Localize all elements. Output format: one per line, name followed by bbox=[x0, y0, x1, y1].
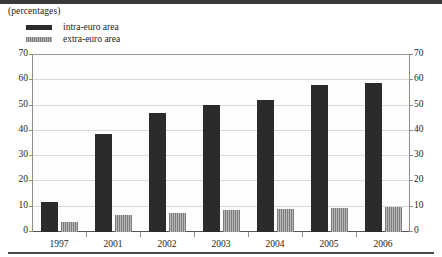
x-tick-label-2002: 2002 bbox=[140, 239, 194, 249]
x-axis-cell-2004: 2004 bbox=[248, 232, 302, 254]
bar-group-2004 bbox=[248, 54, 302, 232]
x-axis-cell-2002: 2002 bbox=[140, 232, 194, 254]
bar-intra-2003 bbox=[203, 105, 220, 232]
bar-extra-2005 bbox=[331, 208, 348, 232]
bar-group-2001 bbox=[86, 54, 140, 232]
chart-subtitle: (percentages) bbox=[8, 6, 60, 16]
y-tick-label-left-60: 60 bbox=[19, 74, 29, 84]
bar-intra-1997 bbox=[41, 202, 58, 233]
x-tick-label-2003: 2003 bbox=[194, 239, 248, 249]
y-tick-label-left-70: 70 bbox=[19, 49, 29, 59]
legend-swatch-extra bbox=[26, 37, 52, 42]
bar-extra-2004 bbox=[277, 209, 294, 232]
x-axis-cell-2006: 2006 bbox=[356, 232, 410, 254]
bar-group-2003 bbox=[194, 54, 248, 232]
x-tick-label-2001: 2001 bbox=[86, 239, 140, 249]
x-axis-separator bbox=[86, 232, 87, 237]
top-divider bbox=[0, 0, 442, 4]
y-tick-label-left-40: 40 bbox=[19, 125, 29, 135]
y-tick-label-right-20: 20 bbox=[414, 175, 424, 185]
x-axis-separator bbox=[140, 232, 141, 237]
x-axis-cell-2003: 2003 bbox=[194, 232, 248, 254]
x-axis-cell-2005: 2005 bbox=[302, 232, 356, 254]
y-tick-label-right-50: 50 bbox=[414, 100, 424, 110]
y-tick-label-right-60: 60 bbox=[414, 74, 424, 84]
x-tick-label-2006: 2006 bbox=[356, 239, 410, 249]
bar-extra-2002 bbox=[169, 213, 186, 232]
x-axis-separator bbox=[194, 232, 195, 237]
x-tick-label-2005: 2005 bbox=[302, 239, 356, 249]
x-axis-separator bbox=[248, 232, 249, 237]
bar-intra-2006 bbox=[365, 83, 382, 232]
bar-groups bbox=[32, 54, 410, 232]
legend-label: extra-euro area bbox=[63, 34, 120, 45]
bar-group-1997 bbox=[32, 54, 86, 232]
bar-group-2002 bbox=[140, 54, 194, 232]
x-axis: 1997200120022003200420052006 bbox=[32, 232, 410, 254]
bar-intra-2002 bbox=[149, 113, 166, 233]
y-tick-label-left-10: 10 bbox=[19, 201, 29, 211]
bottom-divider bbox=[8, 252, 434, 254]
y-tick-label-right-40: 40 bbox=[414, 125, 424, 135]
chart-figure: (percentages) intra-euro areaextra-euro … bbox=[0, 0, 442, 257]
x-axis-separator bbox=[356, 232, 357, 237]
x-tick-label-1997: 1997 bbox=[32, 239, 86, 249]
x-axis-cell-1997: 1997 bbox=[32, 232, 86, 254]
bar-intra-2005 bbox=[311, 85, 328, 232]
bar-extra-1997 bbox=[61, 222, 78, 232]
y-tick-label-right-0: 0 bbox=[414, 226, 419, 236]
x-axis-separator bbox=[302, 232, 303, 237]
bar-group-2005 bbox=[302, 54, 356, 232]
legend-item-intra: intra-euro area bbox=[26, 22, 120, 33]
legend-item-extra: extra-euro area bbox=[26, 34, 120, 45]
y-tick-label-right-10: 10 bbox=[414, 201, 424, 211]
bar-extra-2001 bbox=[115, 215, 132, 232]
x-tick-label-2004: 2004 bbox=[248, 239, 302, 249]
y-tick-label-right-70: 70 bbox=[414, 49, 424, 59]
bar-extra-2003 bbox=[223, 210, 240, 232]
y-tick-label-right-30: 30 bbox=[414, 150, 424, 160]
y-tick-label-left-30: 30 bbox=[19, 150, 29, 160]
legend-label: intra-euro area bbox=[63, 22, 119, 33]
y-tick-label-left-50: 50 bbox=[19, 100, 29, 110]
bar-group-2006 bbox=[356, 54, 410, 232]
chart-legend: intra-euro areaextra-euro area bbox=[26, 22, 120, 46]
y-tick-label-left-0: 0 bbox=[23, 226, 28, 236]
x-axis-cell-2001: 2001 bbox=[86, 232, 140, 254]
bar-extra-2006 bbox=[385, 207, 402, 232]
bar-intra-2004 bbox=[257, 100, 274, 232]
y-tick-label-left-20: 20 bbox=[19, 175, 29, 185]
plot-area-wrapper: 001010202030304040505060607070 bbox=[32, 54, 410, 232]
bar-intra-2001 bbox=[95, 134, 112, 232]
legend-swatch-intra bbox=[26, 25, 52, 30]
